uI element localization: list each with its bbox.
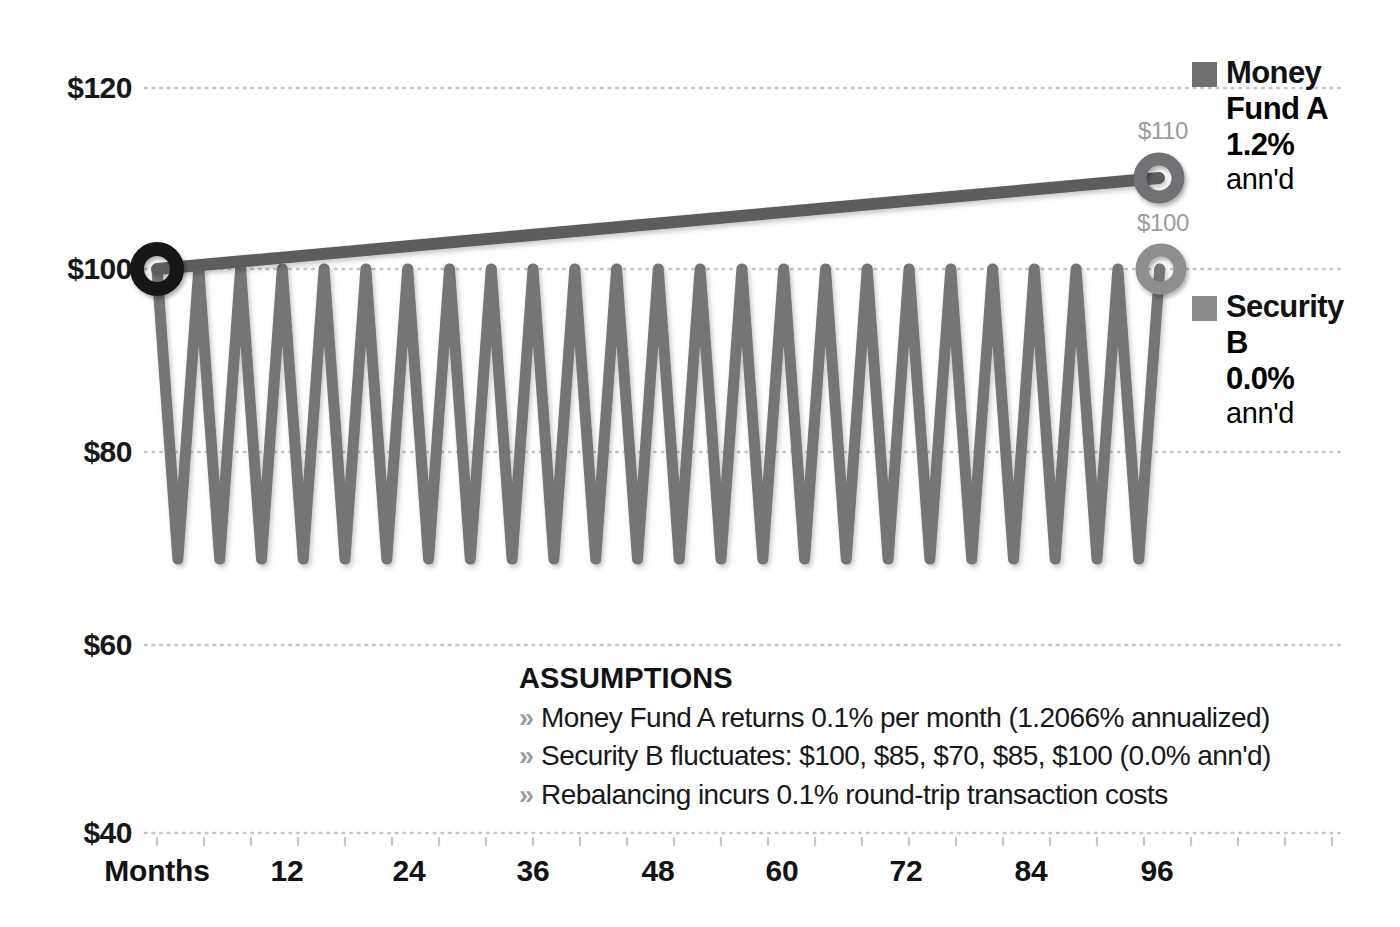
legend-label-money-fund-a-line2: Fund A (1226, 91, 1372, 127)
assumption-item: » Security B fluctuates: $100, $85, $70,… (519, 738, 1279, 774)
x-tick-label-12: 12 (271, 854, 304, 888)
chart-page: $120 $100 $80 $60 $40 Months 12 24 36 48… (0, 0, 1400, 927)
legend-sub-money-fund-a: ann'd (1226, 163, 1372, 196)
assumption-item: » Rebalancing incurs 0.1% round-trip tra… (519, 777, 1279, 813)
x-tick-label-84: 84 (1015, 854, 1048, 888)
y-tick-label-100: $100 (22, 252, 132, 286)
legend-label-security-b-line2: B (1226, 325, 1372, 361)
x-tick-label-96: 96 (1141, 854, 1174, 888)
legend-sub-security-b: ann'd (1226, 397, 1372, 430)
legend-label-security-b-line1: Security (1226, 290, 1344, 325)
y-tick-label-80: $80 (22, 435, 132, 469)
y-tick-label-60: $60 (22, 628, 132, 662)
x-tick-label-48: 48 (642, 854, 675, 888)
legend-item-money-fund-a[interactable]: Money Fund A 1.2% ann'd (1192, 56, 1372, 196)
bullet-icon: » (519, 739, 534, 774)
legend-value-security-b: 0.0% (1226, 361, 1372, 397)
assumption-item: » Money Fund A returns 0.1% per month (1… (519, 700, 1279, 736)
money-fund-a-line (157, 178, 1159, 269)
y-tick-label-40: $40 (22, 816, 132, 850)
legend-label-money-fund-a-line1: Money (1226, 56, 1321, 91)
assumptions-title: ASSUMPTIONS (519, 662, 1279, 695)
legend-value-money-fund-a: 1.2% (1226, 127, 1372, 163)
y-tick-label-120: $120 (22, 71, 132, 105)
x-tick-label-72: 72 (890, 854, 923, 888)
x-tick-label-60: 60 (766, 854, 799, 888)
legend-swatch-security-b (1192, 296, 1217, 321)
legend-item-security-b[interactable]: Security B 0.0% ann'd (1192, 290, 1372, 430)
bullet-icon: » (519, 701, 534, 736)
x-tick-label-36: 36 (517, 854, 550, 888)
x-axis-title: Months (104, 854, 209, 888)
assumption-text-2: Security B fluctuates: $100, $85, $70, $… (541, 738, 1271, 774)
assumption-text-1: Money Fund A returns 0.1% per month (1.2… (541, 700, 1270, 736)
money-fund-end-value-label: $110 (1138, 117, 1188, 145)
security-end-value-label: $100 (1137, 209, 1189, 237)
security-b-line (157, 269, 1160, 559)
legend-swatch-money-fund-a (1192, 62, 1217, 87)
assumption-text-3: Rebalancing incurs 0.1% round-trip trans… (541, 777, 1168, 813)
x-axis-ticks (157, 838, 1332, 845)
assumptions-block: ASSUMPTIONS » Money Fund A returns 0.1% … (519, 662, 1279, 815)
x-tick-label-24: 24 (393, 854, 426, 888)
bullet-icon: » (519, 778, 534, 813)
